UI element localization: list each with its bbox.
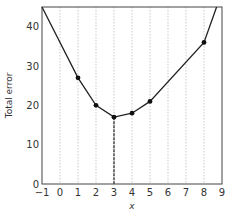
data-point bbox=[94, 103, 99, 108]
data-point bbox=[148, 99, 153, 104]
x-tick-label: 7 bbox=[183, 187, 189, 198]
x-tick-label: 5 bbox=[147, 187, 153, 198]
x-tick-label: 6 bbox=[165, 187, 171, 198]
data-point bbox=[130, 111, 135, 116]
x-tick-label: 4 bbox=[129, 187, 135, 198]
x-tick-label: 0 bbox=[57, 187, 63, 198]
x-tick-label: 2 bbox=[93, 187, 99, 198]
data-point bbox=[112, 115, 117, 120]
y-tick-label: 40 bbox=[26, 21, 39, 32]
y-tick-label: 10 bbox=[26, 139, 39, 150]
x-tick-label: 1 bbox=[75, 187, 81, 198]
y-tick-label: 0 bbox=[33, 179, 39, 190]
x-tick-label: 3 bbox=[111, 187, 117, 198]
data-point bbox=[76, 75, 81, 80]
y-axis-label: Total error bbox=[4, 72, 14, 119]
x-axis-label: x bbox=[128, 201, 135, 211]
x-tick-label: 9 bbox=[219, 187, 225, 198]
y-tick-label: 30 bbox=[26, 61, 39, 72]
data-point bbox=[202, 40, 207, 45]
x-tick-label: 8 bbox=[201, 187, 207, 198]
y-tick-label: 20 bbox=[26, 100, 39, 111]
error-curve bbox=[42, 7, 217, 117]
chart: −10123456789010203040xTotal error bbox=[0, 0, 229, 219]
